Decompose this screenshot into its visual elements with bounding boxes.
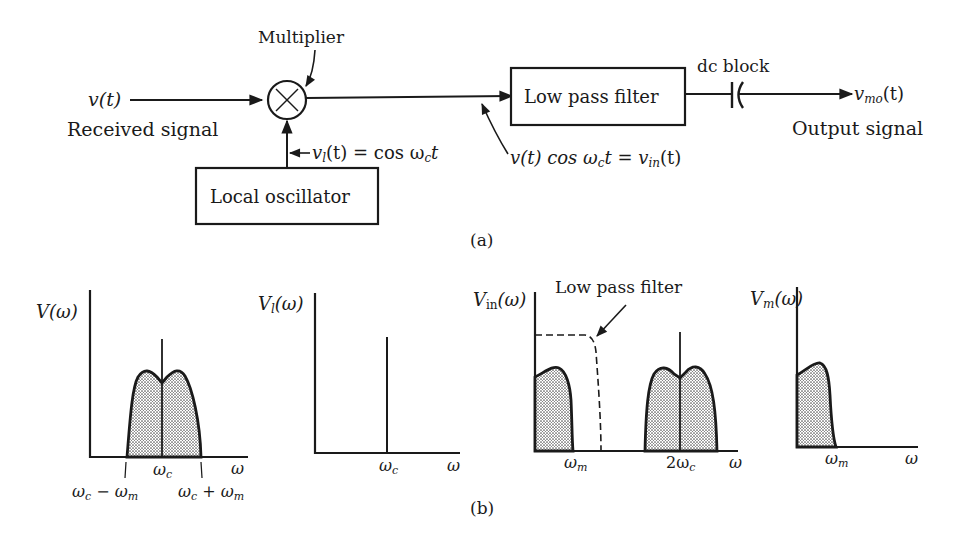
plot1-xlabel: ω	[231, 459, 244, 478]
plot3-ylabel: Vin(ω)	[473, 289, 526, 312]
plot3-baseband-lobe	[535, 367, 573, 451]
multiplier-label: Multiplier	[258, 27, 345, 47]
mixer-output-expr: v(t) cos ωct = vin(t)	[510, 147, 681, 170]
plot1-spectrum	[127, 371, 201, 457]
dc-block-label: dc block	[697, 56, 770, 76]
output-signal-expr: vmo(t)	[854, 83, 904, 106]
block-diagram: v(t) Received signal Multiplier Local os…	[67, 27, 923, 250]
plot3-filter-pointer	[597, 305, 626, 336]
received-signal-label: Received signal	[67, 118, 218, 140]
plot3-tick-m: ωm	[564, 453, 587, 474]
local-oscillator-label: Local oscillator	[210, 186, 350, 207]
caption-b: (b)	[470, 498, 494, 518]
plot3-tick-2c: 2ωc	[666, 453, 695, 474]
plot1-tick-low: ωc − ωm	[72, 482, 138, 503]
input-signal-label: v(t)	[88, 88, 121, 110]
low-pass-filter-label: Low pass filter	[524, 86, 659, 107]
spectrum-plot-vin: Vin(ω) Low pass filter ωm 2ωc ω	[473, 277, 742, 474]
plot2-tick: ωc	[379, 456, 398, 477]
plot2-ylabel: Vl(ω)	[258, 293, 304, 316]
spectrum-plot-v: V(ω) ωc ω ωc − ωm ωc + ωm	[36, 290, 248, 503]
plot3-filter-annotation: Low pass filter	[555, 277, 683, 297]
plot4-baseband-lobe	[797, 363, 836, 447]
oscillator-signal-expr: vl(t) = cos ωct	[312, 142, 439, 165]
plot4-tick: ωm	[825, 449, 848, 470]
caption-a: (a)	[470, 230, 493, 250]
plot1-tick-high: ωc + ωm	[178, 482, 244, 503]
plot3-xlabel: ω	[729, 453, 742, 472]
plot4-xlabel: ω	[905, 449, 918, 468]
spectrum-plot-vl: Vl(ω) ωc ω	[258, 293, 460, 477]
multiplier-pointer-arrow	[306, 50, 315, 86]
plot1-ylabel: V(ω)	[36, 301, 78, 322]
mixer-output-arrow	[306, 96, 512, 98]
am-demodulator-figure: v(t) Received signal Multiplier Local os…	[0, 0, 972, 546]
plot4-ylabel: Vm(ω)	[750, 288, 803, 311]
mixer-output-pointer	[482, 104, 508, 154]
plot1-tick-center: ωc	[153, 460, 172, 481]
spectrum-plot-vm: Vm(ω) ωm ω	[750, 287, 918, 470]
output-signal-label: Output signal	[792, 117, 923, 139]
plot3-2wc-lobe	[645, 367, 717, 451]
plot2-xlabel: ω	[447, 456, 460, 475]
